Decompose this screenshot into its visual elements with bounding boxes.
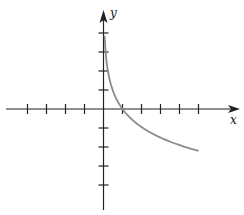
chart: x y <box>0 0 244 215</box>
x-axis-label: x <box>230 113 237 127</box>
y-axis-label: y <box>109 6 117 20</box>
curve <box>105 36 199 151</box>
curve-line <box>105 36 199 151</box>
